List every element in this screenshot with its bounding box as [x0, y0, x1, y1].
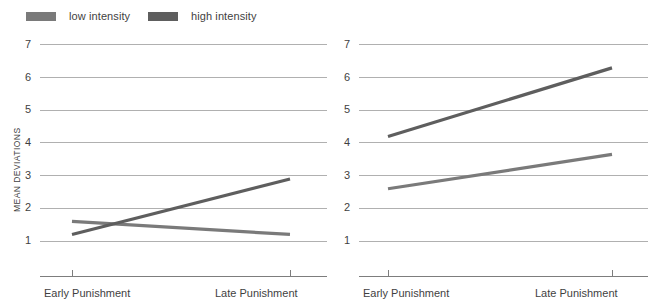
y-tick-label-5: 5 [9, 104, 31, 115]
y-tick-label-6: 6 [328, 72, 350, 83]
chart-panel-left: MEAN DEVIATIONS 7654321Early PunishmentL… [0, 34, 330, 299]
y-tick-label-4: 4 [9, 137, 31, 148]
x-tick-label-0: Early Punishment [363, 287, 449, 299]
y-tick-label-3: 3 [328, 170, 350, 181]
y-tick-label-2: 2 [9, 202, 31, 213]
x-tick-label-0: Early Punishment [44, 287, 130, 299]
y-tick-label-3: 3 [9, 170, 31, 181]
x-tick-label-1: Late Punishment [535, 287, 618, 299]
y-tick-label-5: 5 [328, 104, 350, 115]
legend-swatch-high-intensity [148, 12, 178, 21]
plot-area-left [0, 34, 330, 299]
legend-item-high-intensity: high intensity [148, 9, 257, 23]
legend-swatch-low-intensity [26, 12, 56, 21]
legend-item-low-intensity: low intensity [26, 9, 130, 23]
y-tick-label-1: 1 [328, 235, 350, 246]
y-tick-label-2: 2 [328, 202, 350, 213]
y-tick-label-4: 4 [328, 137, 350, 148]
series-line-low-intensity [72, 221, 290, 234]
y-tick-label-1: 1 [9, 235, 31, 246]
y-tick-label-7: 7 [9, 39, 31, 50]
x-tick-label-1: Late Punishment [215, 287, 298, 299]
series-line-low-intensity [388, 154, 612, 188]
chart-legend: low intensity high intensity [0, 0, 653, 34]
legend-label-low-intensity: low intensity [69, 10, 130, 22]
plot-area-right [330, 34, 653, 299]
series-line-high-intensity [72, 179, 290, 235]
y-tick-label-6: 6 [9, 72, 31, 83]
series-line-high-intensity [388, 68, 612, 137]
chart-panel-right: 7654321Early PunishmentLate Punishment [330, 34, 653, 299]
y-tick-label-7: 7 [328, 39, 350, 50]
legend-label-high-intensity: high intensity [191, 10, 257, 22]
